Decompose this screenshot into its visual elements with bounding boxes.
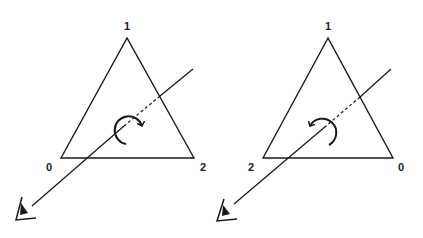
left-view-line-hidden <box>124 96 160 126</box>
rotation-arrow-icon <box>310 119 336 145</box>
right-vertex-top-label: 1 <box>325 20 331 32</box>
left-vertex-bottom-right-label: 2 <box>200 161 206 173</box>
left-panel: 1 0 2 <box>16 20 206 220</box>
eye-icon <box>16 197 36 220</box>
eye-icon <box>217 199 237 221</box>
right-vertex-bottom-right-label: 0 <box>398 161 404 173</box>
right-view-line-back <box>360 69 391 97</box>
left-vertex-top-label: 1 <box>124 20 130 32</box>
left-view-line-back <box>160 69 193 96</box>
right-panel: 1 2 0 <box>217 20 404 221</box>
winding-order-diagram: 1 0 2 1 2 0 <box>0 0 423 238</box>
right-vertex-bottom-left-label: 2 <box>248 161 254 173</box>
left-triangle <box>61 38 194 158</box>
right-triangle <box>263 38 393 158</box>
left-vertex-bottom-left-label: 0 <box>46 161 52 173</box>
